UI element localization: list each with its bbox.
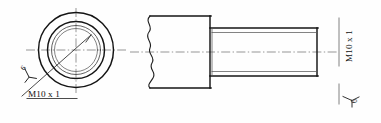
drawing-sheet: 6 M10 x 1: [0, 0, 381, 123]
technical-drawing-canvas: 6 M10 x 1: [0, 0, 381, 123]
roughness-symbol-left: [18, 69, 36, 87]
thread-label-left: M10 x 1: [28, 89, 60, 99]
thread-label-right: M10 x 1: [344, 30, 354, 62]
end-view-group: 6 M10 x 1: [18, 8, 126, 99]
roughness-tail-glyph: [29, 74, 36, 81]
roughness-value-right: 6: [350, 99, 359, 103]
roughness-value-left: 6: [18, 64, 28, 73]
side-view-group: M10 x 1 6: [130, 16, 359, 107]
